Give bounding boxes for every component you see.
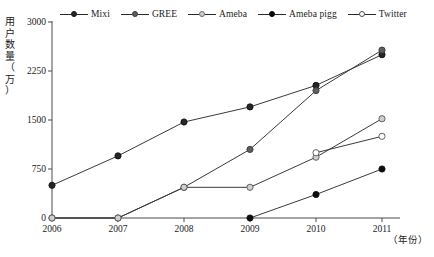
data-point-gree[interactable]	[379, 47, 385, 53]
data-point-ameba[interactable]	[247, 184, 253, 190]
data-point-ameba-pigg[interactable]	[379, 166, 385, 172]
x-axis-tick-label: 2008	[175, 224, 194, 234]
series-line-gree	[52, 50, 382, 218]
y-axis-tick-label: 0	[41, 213, 46, 223]
data-point-gree[interactable]	[313, 88, 319, 94]
x-axis-tick-label: 2011	[373, 224, 392, 234]
y-axis-tick-label: 1500	[27, 115, 46, 125]
data-point-gree[interactable]	[247, 146, 253, 152]
data-point-twitter[interactable]	[379, 133, 385, 139]
chart-plot-area: 0750150022503000200620072008200920102011	[0, 0, 434, 257]
chart-container: Mixi GREE Ameba Ameba pigg Twitter	[0, 0, 434, 257]
data-point-ameba-pigg[interactable]	[247, 215, 253, 221]
data-point-ameba[interactable]	[115, 215, 121, 221]
y-axis-tick-label: 2250	[27, 66, 46, 76]
data-point-twitter[interactable]	[313, 150, 319, 156]
data-point-ameba[interactable]	[379, 116, 385, 122]
data-point-mixi[interactable]	[115, 153, 121, 159]
y-axis-tick-label: 750	[32, 164, 47, 174]
x-axis-tick-label: 2010	[307, 224, 326, 234]
data-point-mixi[interactable]	[181, 119, 187, 125]
data-point-ameba-pigg[interactable]	[313, 191, 319, 197]
y-axis-tick-label: 3000	[27, 17, 46, 27]
series-line-twitter	[316, 136, 382, 152]
series-line-mixi	[52, 55, 382, 186]
data-point-mixi[interactable]	[247, 104, 253, 110]
x-axis-tick-label: 2007	[109, 224, 128, 234]
x-axis-tick-label: 2006	[43, 224, 62, 234]
data-point-ameba[interactable]	[181, 184, 187, 190]
x-axis-tick-label: 2009	[241, 224, 260, 234]
data-point-ameba[interactable]	[49, 215, 55, 221]
data-point-mixi[interactable]	[49, 182, 55, 188]
